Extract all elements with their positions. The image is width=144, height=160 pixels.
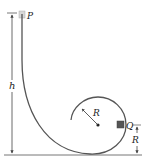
radius-label: R — [92, 108, 100, 118]
block-height-label: R — [131, 135, 139, 145]
track-path — [22, 14, 126, 154]
block-q-label: Q — [126, 121, 134, 131]
loop-track-diagram: h P R Q R — [0, 0, 144, 160]
block-p-label: P — [26, 11, 34, 21]
height-label: h — [9, 80, 15, 91]
block-q — [117, 121, 124, 128]
